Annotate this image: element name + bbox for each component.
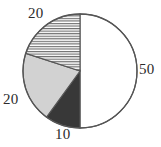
- pie-label-bottom: 10: [55, 127, 70, 142]
- pie-label-left: 20: [3, 92, 18, 107]
- pie-chart-svg: [0, 0, 161, 147]
- pie-slice-50[interactable]: [80, 14, 137, 128]
- pie-label-top: 20: [28, 6, 43, 21]
- pie-label-right: 50: [139, 62, 154, 77]
- pie-chart-figure: 20 50 20 10: [0, 0, 161, 147]
